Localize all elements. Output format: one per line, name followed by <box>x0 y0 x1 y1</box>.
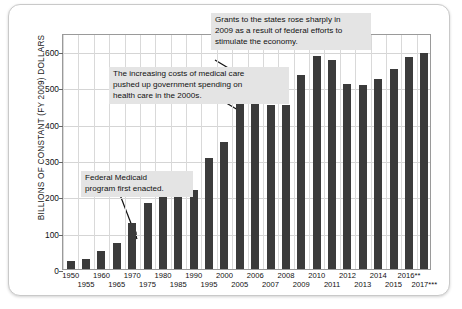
grants-2009-note: Grants to the states rose sharply in 200… <box>211 13 371 50</box>
y-axis-tick-label: 500 <box>45 84 59 94</box>
y-axis-tick-label: 200 <box>45 193 59 203</box>
x-gridline <box>371 35 372 269</box>
bar <box>159 186 167 269</box>
medicaid-enacted-note: Federal Medicaid program first enacted. <box>81 171 193 197</box>
x-axis-tick-label: 2017*** <box>411 280 437 289</box>
bar <box>267 105 275 269</box>
x-axis-tick-label: 1965 <box>108 280 125 289</box>
x-axis-tick-label: 1990 <box>185 271 202 280</box>
x-gridline <box>417 35 418 269</box>
bar <box>374 79 382 269</box>
bar <box>113 243 121 269</box>
x-axis-tick-label: 2013 <box>354 280 371 289</box>
bar <box>282 105 290 269</box>
x-axis-tick-label: 2010 <box>308 271 325 280</box>
chart-card: BILLIONS OF CONSTANT (FY 2009) DOLLARS 0… <box>8 4 450 296</box>
y-axis-tick-label: 600 <box>45 48 59 58</box>
bar <box>297 75 305 269</box>
bar <box>420 53 428 269</box>
bar <box>390 69 398 269</box>
bar <box>97 251 105 269</box>
x-axis-tick-label: 1955 <box>78 280 95 289</box>
x-axis-tick-label: 1950 <box>62 271 79 280</box>
bar <box>67 261 75 269</box>
x-axis-tick-label: 2011 <box>324 280 340 289</box>
x-axis-tick-label: 1970 <box>124 271 141 280</box>
x-axis-tick-label: 2008 <box>277 271 294 280</box>
y-gridline <box>63 53 430 54</box>
bar <box>174 197 182 269</box>
y-axis-tick-label: 400 <box>45 121 59 131</box>
x-gridline <box>294 35 295 269</box>
x-axis-tick-label: 1995 <box>201 280 218 289</box>
bar <box>205 158 213 269</box>
x-gridline <box>324 35 325 269</box>
x-axis-tick-label: 2016** <box>398 271 421 280</box>
x-axis-tick-label: 1960 <box>93 271 110 280</box>
bar <box>236 101 244 269</box>
medical-costs-note: The increasing costs of medical care pus… <box>109 67 289 104</box>
chart-figure: BILLIONS OF CONSTANT (FY 2009) DOLLARS 0… <box>9 5 451 297</box>
bar <box>328 60 336 269</box>
x-axis-tick-label: 2007 <box>262 280 279 289</box>
x-gridline <box>401 35 402 269</box>
x-axis-tick-label: 1980 <box>154 271 171 280</box>
bar <box>220 142 228 269</box>
bar <box>313 56 321 269</box>
x-axis-tick-label: 2014 <box>370 271 387 280</box>
x-axis-tick-label: 2006 <box>247 271 264 280</box>
x-gridline <box>309 35 310 269</box>
x-gridline <box>355 35 356 269</box>
bar <box>82 259 90 269</box>
x-gridline <box>94 35 95 269</box>
x-axis-tick-label: 2000 <box>216 271 233 280</box>
bar <box>190 190 198 269</box>
bar <box>405 57 413 269</box>
x-gridline <box>78 35 79 269</box>
bar <box>128 223 136 269</box>
x-axis-tick-label: 2009 <box>293 280 310 289</box>
y-axis-tick-label: 300 <box>45 157 59 167</box>
bar <box>343 84 351 269</box>
x-axis-tick-label: 1975 <box>139 280 156 289</box>
x-gridline <box>340 35 341 269</box>
plot-area: 0100200300400500600195019551960196519701… <box>62 34 431 270</box>
x-axis-tick-label: 1985 <box>170 280 187 289</box>
bar <box>359 85 367 269</box>
x-axis-tick-label: 2005 <box>231 280 248 289</box>
y-axis-tick-label: 100 <box>45 230 59 240</box>
bar <box>251 104 259 269</box>
x-axis-tick-label: 2015 <box>385 280 402 289</box>
bar <box>144 203 152 269</box>
x-gridline <box>63 35 64 269</box>
x-gridline <box>386 35 387 269</box>
x-axis-tick-label: 2012 <box>339 271 356 280</box>
